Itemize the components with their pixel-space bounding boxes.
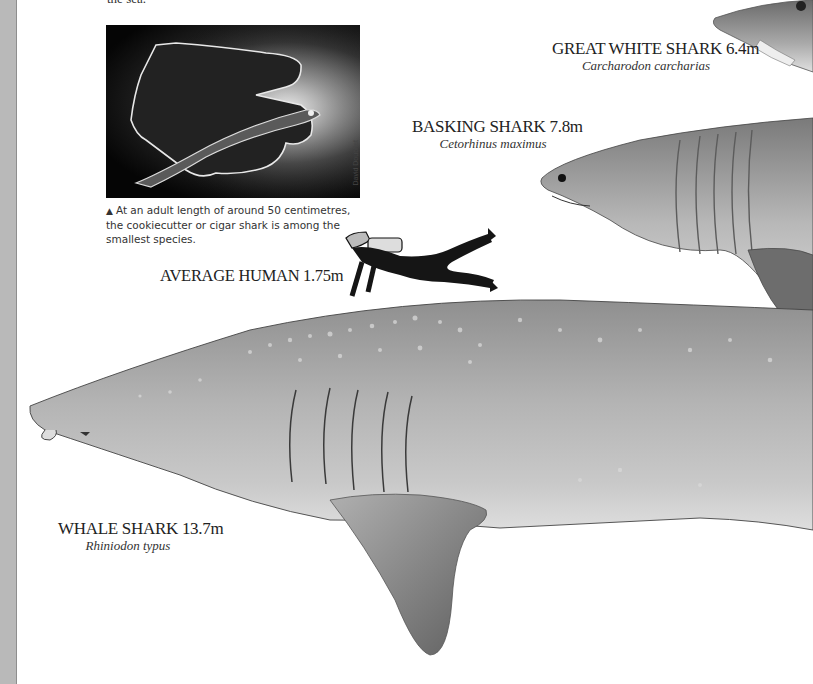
average-human-label: AVERAGE HUMAN 1.75m (160, 266, 343, 286)
basking-shark-eye (558, 174, 566, 182)
great-white-shark-label: GREAT WHITE SHARK 6.4m Carcharodon carch… (552, 39, 740, 74)
scuba-diver (346, 228, 498, 296)
great-white-shark-name: GREAT WHITE SHARK 6.4m (552, 39, 740, 59)
basking-shark (541, 118, 813, 320)
great-white-eye (796, 1, 806, 11)
basking-shark-latin-name: Cetorhinus maximus (412, 136, 574, 152)
whale-shark-label: WHALE SHARK 13.7m Rhiniodon typus (58, 519, 198, 554)
whale-shark (30, 300, 813, 655)
whale-shark-name: WHALE SHARK 13.7m (58, 519, 198, 539)
whale-shark-pectoral-fin (330, 494, 487, 655)
whale-shark-latin-name: Rhiniodon typus (58, 538, 198, 554)
average-human-name: AVERAGE HUMAN 1.75m (160, 266, 343, 286)
shark-size-illustration (0, 0, 813, 684)
whale-shark-mouth (41, 430, 56, 440)
basking-shark-name: BASKING SHARK 7.8m (412, 117, 574, 137)
basking-shark-label: BASKING SHARK 7.8m Cetorhinus maximus (412, 117, 574, 152)
great-white-shark-latin-name: Carcharodon carcharias (552, 58, 740, 74)
